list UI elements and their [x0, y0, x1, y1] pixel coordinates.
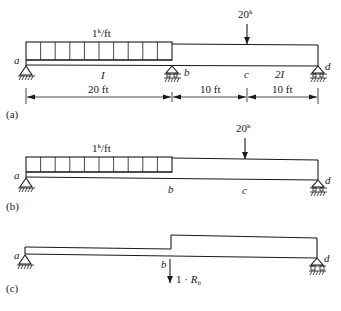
point-label-a-b: a [14, 169, 20, 181]
distributed-load-a [26, 42, 172, 60]
distributed-load-label-b: 1k/ft [92, 142, 111, 154]
point-label-c: c [244, 68, 249, 80]
point-label-c-b: c [242, 184, 247, 196]
dimension-label-bc: 10 ft [200, 83, 220, 95]
distributed-load-b [26, 157, 172, 172]
point-label-d: d [325, 60, 331, 72]
dimension-label-ab: 20 ft [88, 83, 108, 95]
caption-c: (c) [6, 282, 19, 295]
pin-support-a-c [17, 255, 34, 269]
distributed-load-label-a: 1k/ft [92, 27, 111, 39]
point-load-label-a: 20k [238, 8, 253, 20]
pin-support-a [18, 66, 35, 80]
beam-diagram: 1k/ft 20k a b c d I 2I [0, 0, 341, 311]
point-label-d-b: d [325, 174, 331, 186]
section-label-I: I [100, 69, 106, 81]
diagram-a: 1k/ft 20k a b c d I 2I [6, 8, 331, 121]
redundant-load-label: 1 · Rb [176, 273, 201, 287]
point-label-b-c: b [161, 258, 167, 270]
caption-b: (b) [6, 200, 19, 213]
point-label-a-c: a [14, 249, 20, 261]
section-label-2I: 2I [275, 68, 286, 80]
point-label-b-b: b [168, 183, 174, 195]
roller-support-b [164, 66, 181, 82]
pin-support-a-b [18, 178, 35, 192]
diagram-c: a b d 1 · Rb (c) [6, 235, 330, 295]
beam-c [25, 235, 317, 258]
dimension-label-cd: 10 ft [272, 83, 292, 95]
point-label-d-c: d [324, 252, 330, 264]
diagram-b: 1k/ft 20k a b c d (b) [6, 122, 331, 213]
caption-a: (a) [6, 108, 19, 121]
point-label-a: a [14, 54, 20, 66]
point-load-label-b: 20k [236, 122, 251, 134]
point-label-b: b [184, 66, 190, 78]
